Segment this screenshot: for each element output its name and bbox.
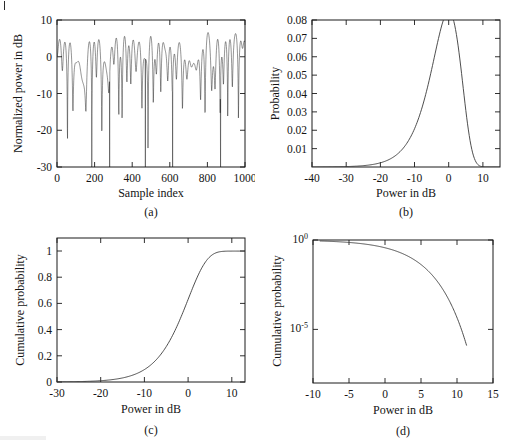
panel-a-xtick-1000: 1000 xyxy=(234,172,256,184)
panel-b-xtick-m10: -10 xyxy=(407,172,423,184)
panel-b-xtick-m20: -20 xyxy=(373,172,389,184)
panel-b-pdf-curve xyxy=(312,11,500,167)
panel-a-x-ticks xyxy=(57,20,245,167)
panel-c-x-ticks xyxy=(57,238,232,382)
panel-b-caption: (b) xyxy=(399,205,413,219)
panel-b-xtick-0: 0 xyxy=(446,172,452,184)
panel-d-ylabel: Cumulative probability xyxy=(270,255,284,367)
panel-b-xtick-10: 10 xyxy=(477,172,489,184)
panel-d-ytick-1e0: 100 xyxy=(293,232,309,245)
panel-c-cdf-curve xyxy=(57,251,245,382)
panel-c-ylabel: Cumulative probability xyxy=(13,254,27,366)
panel-a-y-ticks xyxy=(57,20,245,167)
panel-d-xtick-0: 0 xyxy=(382,388,388,400)
panel-a-ytick-m10: -10 xyxy=(37,88,53,100)
panel-a: 10 0 -10 -20 -30 0 200 400 600 800 1000 … xyxy=(0,0,255,223)
panel-a-xtick-0: 0 xyxy=(54,172,60,184)
panel-c-ytick-1: 1 xyxy=(46,245,52,257)
panel-d-log-cdf-curve xyxy=(320,241,466,345)
panel-a-caption: (a) xyxy=(144,205,157,219)
panel-a-ytick-0: 0 xyxy=(46,51,52,63)
panel-c-ytick-08: 0.8 xyxy=(38,271,53,283)
panel-a-xtick-400: 400 xyxy=(124,172,142,184)
panel-d-xtick-10: 10 xyxy=(451,388,463,400)
panel-d-xtick-m10: -10 xyxy=(305,388,321,400)
panel-a-ytick-m20: -20 xyxy=(37,124,53,136)
panel-c-ytick-02: 0.2 xyxy=(38,350,53,362)
panel-a-xtick-600: 600 xyxy=(161,172,179,184)
panel-c-plot-frame xyxy=(57,238,245,382)
panel-c-y-ticks xyxy=(57,251,245,382)
panel-b-ytick-003: 0.03 xyxy=(287,106,307,118)
panel-b-ytick-004: 0.04 xyxy=(287,88,307,100)
panel-c-xtick-0: 0 xyxy=(185,387,191,399)
four-panel-fading-figure: 10 0 -10 -20 -30 0 200 400 600 800 1000 … xyxy=(0,0,509,446)
panel-d-x-ticks xyxy=(313,240,493,383)
panel-d-xtick-m5: -5 xyxy=(344,388,354,400)
panel-a-xlabel: Sample index xyxy=(118,186,184,200)
panel-b-y-ticks xyxy=(312,20,500,149)
panel-c-xtick-m30: -30 xyxy=(49,387,65,399)
panel-a-xtick-200: 200 xyxy=(86,172,104,184)
panel-b-xtick-m40: -40 xyxy=(304,172,320,184)
panel-a-ytick-m30: -30 xyxy=(37,161,53,173)
panel-d-ytick-1em5: 10-5 xyxy=(290,321,308,334)
panel-c-xtick-m20: -20 xyxy=(93,387,109,399)
panel-a-ylabel: Normalized power in dB xyxy=(11,34,25,153)
panel-c-xlabel: Power in dB xyxy=(121,402,181,416)
panel-c-xtick-m10: -10 xyxy=(137,387,153,399)
panel-c-ytick-06: 0.6 xyxy=(38,297,53,309)
panel-b-ytick-006: 0.06 xyxy=(287,51,307,63)
panel-c-xtick-10: 10 xyxy=(226,387,238,399)
panel-b: 0.08 0.07 0.06 0.05 0.04 0.03 0.02 0.01 … xyxy=(255,0,509,223)
panel-b-ytick-005: 0.05 xyxy=(287,69,307,81)
panel-a-ytick-10: 10 xyxy=(41,14,53,26)
panel-b-ytick-007: 0.07 xyxy=(287,32,307,44)
panel-d-xtick-15: 15 xyxy=(487,388,499,400)
panel-d-xtick-5: 5 xyxy=(418,388,424,400)
panel-b-ylabel: Probability xyxy=(268,67,282,120)
panel-d: 100 10-5 -10 -5 0 5 10 15 Power in dB Cu… xyxy=(255,223,509,446)
panel-b-ytick-002: 0.02 xyxy=(287,124,307,136)
panel-c-ytick-04: 0.4 xyxy=(38,324,53,336)
panel-b-ytick-001: 0.01 xyxy=(287,143,307,155)
panel-d-caption: (d) xyxy=(396,424,410,438)
panel-a-xtick-800: 800 xyxy=(199,172,217,184)
panel-b-xlabel: Power in dB xyxy=(376,186,436,200)
panel-d-plot-frame xyxy=(313,240,493,383)
panel-c-caption: (c) xyxy=(144,423,157,437)
panel-a-signal-trace xyxy=(57,33,245,178)
panel-d-xlabel: Power in dB xyxy=(373,403,433,417)
panel-c: 0 0.2 0.4 0.6 0.8 1 -30 -20 -10 0 10 Pow… xyxy=(0,223,255,446)
panel-a-plot-frame xyxy=(57,20,245,167)
panel-b-ytick-008: 0.08 xyxy=(287,14,307,26)
panel-b-xtick-m30: -30 xyxy=(339,172,355,184)
